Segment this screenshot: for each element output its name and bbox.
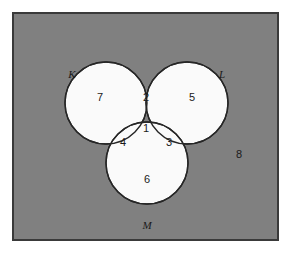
venn-diagram: K L M 7 2 5 4 1 3 6 8: [0, 0, 292, 257]
region-count-k-and-l: 2: [143, 91, 149, 103]
region-count-outside: 8: [236, 148, 242, 160]
set-label-M: M: [141, 219, 152, 231]
region-count-k-and-m: 4: [120, 136, 126, 148]
region-count-m-only: 6: [144, 173, 150, 185]
region-count-k-l-m: 1: [143, 122, 149, 134]
region-count-k-only: 7: [97, 91, 103, 103]
figure-canvas: K L M 7 2 5 4 1 3 6 8: [0, 0, 292, 257]
region-count-l-only: 5: [189, 91, 195, 103]
set-label-L: L: [218, 68, 225, 80]
region-count-l-and-m: 3: [166, 136, 172, 148]
set-label-K: K: [67, 68, 76, 80]
